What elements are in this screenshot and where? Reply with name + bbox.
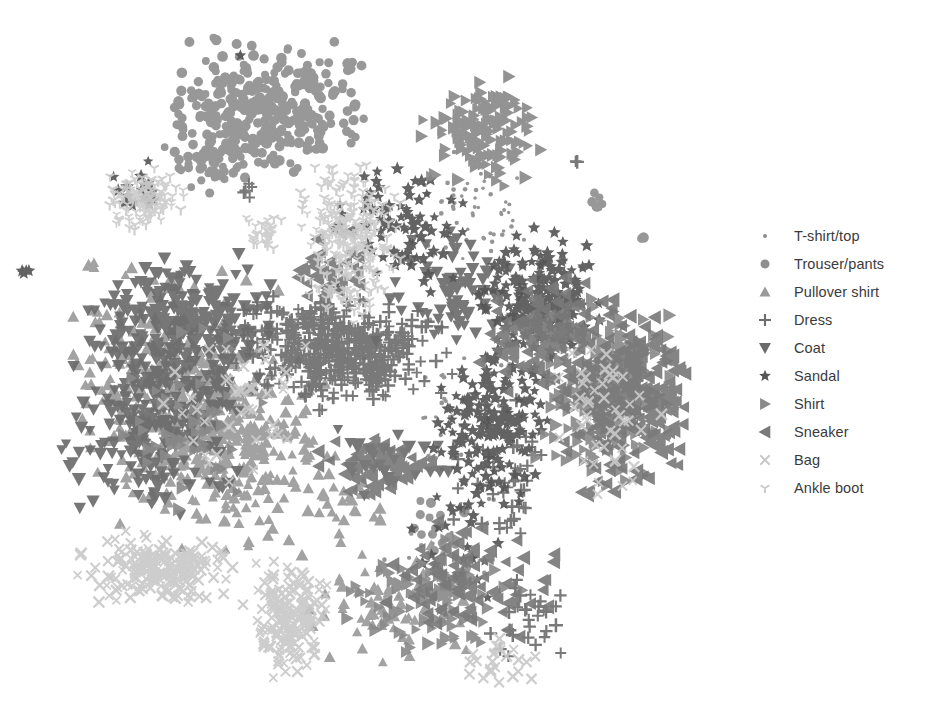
legend-item-label: Sandal [782,368,840,384]
legend: T-shirt/topTrouser/pantsPullover shirtDr… [748,222,938,502]
circle-marker [748,250,782,278]
tri-y-marker [748,474,782,502]
plus-marker [748,306,782,334]
legend-item-dress[interactable]: Dress [748,306,938,334]
triangle-left-marker [748,418,782,446]
tsne-scatter-figure: T-shirt/topTrouser/pantsPullover shirtDr… [0,0,943,711]
legend-item-t-shirt-top[interactable]: T-shirt/top [748,222,938,250]
cross-x-marker [748,446,782,474]
legend-item-label: T-shirt/top [782,228,860,244]
legend-item-label: Shirt [782,396,824,412]
legend-item-sandal[interactable]: Sandal [748,362,938,390]
legend-item-label: Sneaker [782,424,849,440]
triangle-down-marker [748,334,782,362]
triangle-up-marker [748,278,782,306]
legend-item-label: Coat [782,340,825,356]
legend-item-label: Bag [782,452,820,468]
legend-item-trouser-pants[interactable]: Trouser/pants [748,250,938,278]
star-marker [748,362,782,390]
legend-item-shirt[interactable]: Shirt [748,390,938,418]
legend-item-ankle-boot[interactable]: Ankle boot [748,474,938,502]
scatter-plot-canvas [0,0,700,711]
legend-item-label: Dress [782,312,832,328]
legend-item-pullover-shirt[interactable]: Pullover shirt [748,278,938,306]
legend-item-bag[interactable]: Bag [748,446,938,474]
small-circle-marker [748,222,782,250]
legend-item-label: Ankle boot [782,480,864,496]
triangle-right-marker [748,390,782,418]
legend-item-label: Pullover shirt [782,284,879,300]
legend-item-label: Trouser/pants [782,256,884,272]
legend-item-sneaker[interactable]: Sneaker [748,418,938,446]
legend-item-coat[interactable]: Coat [748,334,938,362]
